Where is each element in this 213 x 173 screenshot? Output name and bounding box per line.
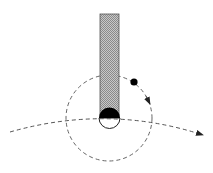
diagram-canvas: [0, 0, 213, 173]
orbit-direction-arrow-icon: [146, 96, 150, 104]
tip-lower-half: [99, 118, 120, 129]
particle-dot: [130, 78, 137, 85]
rod: [100, 14, 119, 118]
